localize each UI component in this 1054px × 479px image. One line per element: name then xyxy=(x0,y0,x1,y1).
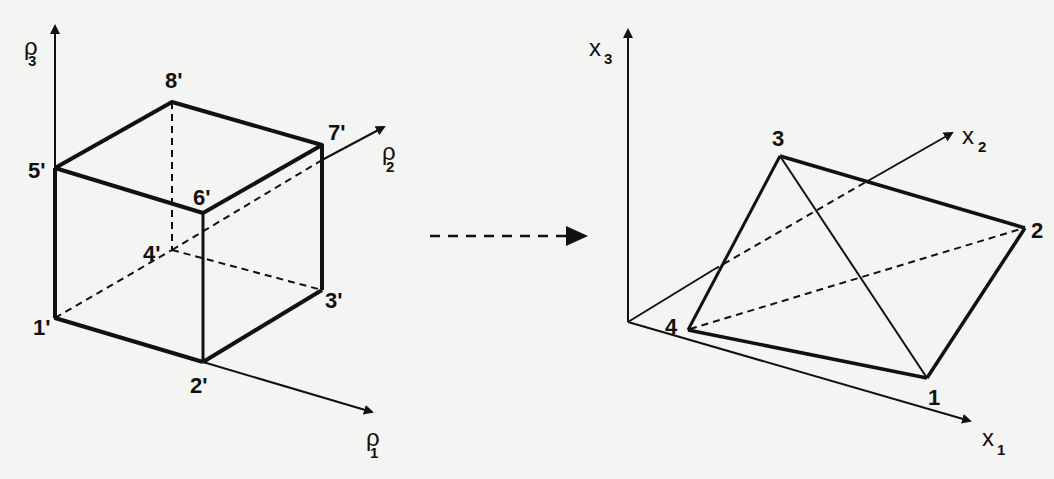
vertex-label-6p: 6' xyxy=(193,185,210,210)
vertex-label-3: 3 xyxy=(772,126,784,151)
svg-text:3: 3 xyxy=(604,50,612,67)
x1-label: x 1 xyxy=(982,424,1005,458)
vertex-label-5p: 5' xyxy=(28,158,45,183)
tetrahedron-figure: x 3 x 2 x 1 1 2 3 4 xyxy=(589,30,1043,458)
diagram-canvas: ρ 3 ρ 2 ρ 1 1' 2' 3' 4' 5' 6' 7' 8' xyxy=(0,0,1054,479)
svg-text:1: 1 xyxy=(370,444,378,461)
vertex-label-3p: 3' xyxy=(325,288,342,313)
vertex-label-2: 2 xyxy=(1031,218,1043,243)
vertex-label-1: 1 xyxy=(928,385,940,410)
vertex-label-8p: 8' xyxy=(165,68,182,93)
tetra-hidden-edge xyxy=(690,228,1024,329)
vertex-label-2p: 2' xyxy=(190,373,207,398)
svg-text:2: 2 xyxy=(978,138,986,155)
tetra-visible-edges xyxy=(688,156,1025,378)
x3-label: x 3 xyxy=(589,34,612,67)
rho1-axis xyxy=(203,362,372,412)
cube-figure: ρ 3 ρ 2 ρ 1 1' 2' 3' 4' 5' 6' 7' 8' xyxy=(24,26,396,461)
rho3-label: ρ 3 xyxy=(24,33,38,69)
cube-visible-edges xyxy=(55,102,322,362)
rho1-label: ρ 1 xyxy=(366,424,380,461)
x2-axis-tip xyxy=(866,133,952,182)
vertex-label-4: 4 xyxy=(665,314,678,339)
svg-text:x: x xyxy=(962,122,974,149)
vertex-label-7p: 7' xyxy=(328,120,345,145)
svg-text:2: 2 xyxy=(386,158,394,175)
cube-to-tetrahedron-diagram: ρ 3 ρ 2 ρ 1 1' 2' 3' 4' 5' 6' 7' 8' xyxy=(0,0,1054,479)
svg-text:3: 3 xyxy=(28,52,36,69)
vertex-label-4p: 4' xyxy=(143,241,160,266)
x1-axis xyxy=(628,322,970,421)
x2-axis-hidden xyxy=(713,182,866,270)
rho2-label: ρ 2 xyxy=(382,138,396,175)
vertex-label-1p: 1' xyxy=(33,315,50,340)
mapping-arrow-icon xyxy=(430,226,588,246)
x2-label: x 2 xyxy=(962,122,986,155)
svg-text:x: x xyxy=(589,34,601,61)
svg-text:1: 1 xyxy=(997,441,1005,458)
svg-text:x: x xyxy=(982,424,994,451)
